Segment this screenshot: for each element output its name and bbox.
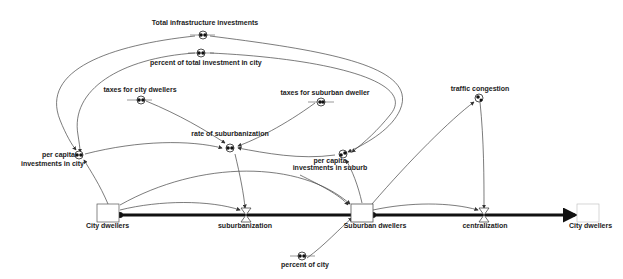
- label-percent-of-city: percent of city: [280, 261, 330, 269]
- converter-rate-suburbanization[interactable]: [226, 144, 234, 152]
- converter-percent-of-city[interactable]: [290, 252, 315, 260]
- label-per-capita-suburb-2: investments in suburb: [285, 164, 375, 172]
- label-city-dwellers: City dwellers: [80, 222, 135, 230]
- label-total-infra: Total infrastructure investments: [150, 19, 260, 27]
- converter-taxes-city[interactable]: [127, 96, 152, 104]
- converter-taxes-suburban[interactable]: [308, 98, 334, 106]
- stock-flow-diagram: Total infrastructure investments percent…: [0, 0, 623, 279]
- label-per-capita-city-1: per capita: [10, 151, 75, 159]
- label-centralization: centralization: [455, 222, 515, 230]
- label-rate-suburbanization: rate of suburbanization: [190, 130, 270, 138]
- label-taxes-city: taxes for city dwellers: [100, 86, 180, 94]
- stock-city-dwellers[interactable]: [97, 204, 119, 222]
- label-suburban-dwellers: Suburban dwellers: [340, 222, 410, 230]
- label-city-dwellers-sink: City dwellers: [563, 222, 618, 230]
- stock-suburban-dwellers[interactable]: [351, 204, 373, 222]
- label-traffic-congestion: traffic congestion: [450, 85, 510, 93]
- converter-traffic-congestion[interactable]: [475, 94, 483, 102]
- converter-per-capita-city[interactable]: [75, 151, 83, 159]
- diagram-graphics: [0, 0, 623, 279]
- converter-percent-total-city[interactable]: [188, 49, 214, 57]
- stock-city-dwellers-sink[interactable]: [577, 204, 599, 222]
- flow-pipe: [117, 212, 575, 218]
- label-per-capita-city-2: investments in city: [10, 160, 84, 168]
- label-suburbanization: suburbanization: [210, 222, 280, 230]
- converter-total-infra[interactable]: [190, 31, 215, 39]
- label-percent-total-city: percent of total investment in city: [150, 59, 260, 67]
- label-taxes-suburban: taxes for suburban dweller: [275, 89, 375, 97]
